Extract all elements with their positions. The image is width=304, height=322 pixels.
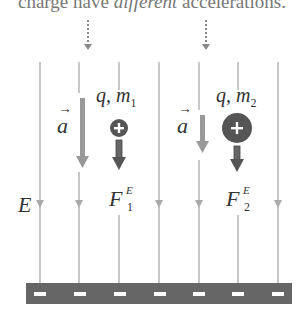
accel-arrow-1 <box>76 98 89 168</box>
particle-2 <box>222 113 252 143</box>
particle-1 <box>110 119 128 137</box>
diagram <box>0 0 304 322</box>
field-label: E <box>18 192 31 218</box>
force-arrow-1 <box>112 140 126 170</box>
force-1-label: FE1 <box>109 186 122 212</box>
accel-label-1: →a <box>57 113 68 139</box>
force-arrow-2 <box>230 146 244 172</box>
force-2-label: FE2 <box>226 186 239 212</box>
accel-label-2: →a <box>177 113 188 139</box>
accel-arrow-2 <box>196 115 209 153</box>
particle-2-label: q, m2 <box>216 84 256 111</box>
particle-1-label: q, m1 <box>96 84 136 111</box>
dotted-arrows <box>88 20 206 44</box>
